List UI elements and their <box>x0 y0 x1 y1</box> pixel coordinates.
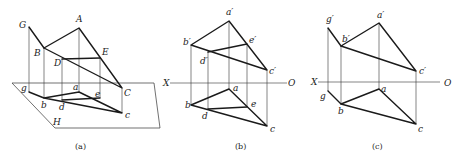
label-X: X <box>310 77 318 87</box>
line-gb <box>328 91 341 104</box>
label-b-prime: b′ <box>183 37 191 47</box>
figure-b-orthographic: a′ b′ e′ d′ c′ X O a b d e c (b) <box>162 7 296 151</box>
label-B: B <box>33 48 41 58</box>
label-E: E <box>101 47 109 57</box>
label-b: b <box>185 100 191 110</box>
label-c-prime: c′ <box>419 66 426 76</box>
label-X: X <box>162 78 170 88</box>
label-e: e <box>251 99 256 109</box>
line-de <box>208 107 247 109</box>
label-c: c <box>418 124 423 134</box>
label-C: C <box>124 88 131 98</box>
label-g: g <box>21 83 27 93</box>
label-c: c <box>125 110 130 120</box>
line-d'e' <box>208 44 247 52</box>
label-c: c <box>270 124 275 134</box>
label-g: g <box>320 91 326 101</box>
figure-a-pictorial: G A B E D C g a b d e c H (a) <box>12 14 160 151</box>
label-a-prime: a′ <box>226 7 233 17</box>
triangle-abc <box>44 92 122 113</box>
label-e-prime: e′ <box>249 35 256 45</box>
line-GB <box>29 27 44 48</box>
label-A: A <box>75 14 83 24</box>
caption-a: (a) <box>75 142 86 151</box>
label-e: e <box>95 89 100 99</box>
caption-b: (b) <box>235 142 246 151</box>
label-d-prime: d′ <box>200 56 208 66</box>
label-G: G <box>19 20 26 30</box>
label-b: b <box>41 100 47 110</box>
label-g-prime: g′ <box>326 14 334 24</box>
label-a: a <box>73 82 78 92</box>
label-O: O <box>288 78 296 88</box>
label-a-prime: a′ <box>377 10 384 20</box>
label-H-plane: H <box>52 117 61 127</box>
caption-c: (c) <box>372 142 383 151</box>
line-g'b' <box>328 28 341 46</box>
label-d: d <box>59 102 65 112</box>
triangle-a'b'c' <box>341 23 416 71</box>
line-DE <box>62 58 100 59</box>
figure-c-orthographic: g′ a′ b′ c′ X O a g b c (c) <box>310 10 452 151</box>
label-b: b <box>338 106 344 116</box>
label-c-prime: c′ <box>269 66 276 76</box>
label-D: D <box>53 58 61 68</box>
label-a: a <box>233 83 238 93</box>
label-a: a <box>381 84 386 94</box>
label-b-prime: b′ <box>342 34 350 44</box>
projection-diagram: G A B E D C g a b d e c H (a) a′ b′ e′ d… <box>0 0 459 157</box>
label-d: d <box>202 111 208 121</box>
triangle-abc-top <box>341 89 416 124</box>
label-O: O <box>444 78 452 88</box>
